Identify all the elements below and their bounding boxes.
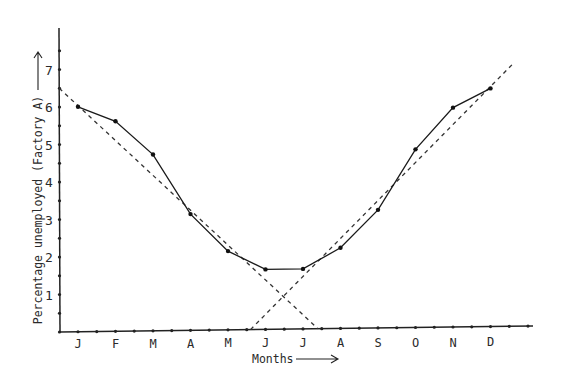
x-axis-title: Months	[252, 352, 294, 366]
x-tick-label: N	[449, 336, 456, 350]
y-tick-mark	[58, 180, 61, 183]
x-tick-label: M	[224, 336, 231, 350]
y-tick-label: 2	[45, 250, 53, 265]
x-tick-mark	[189, 329, 192, 332]
axes	[59, 28, 533, 332]
unemployment-chart: 1234567 JFMAMJJASOND Percentage unemploy…	[0, 0, 562, 384]
y-tick-mark	[58, 105, 61, 108]
y-tick-mark	[58, 255, 61, 258]
data-point	[226, 249, 230, 253]
y-tick-mark	[58, 143, 61, 146]
x-tick-mark	[414, 326, 417, 329]
data-point	[376, 208, 380, 212]
y-tick-mark	[58, 199, 61, 202]
x-tick-mark	[114, 330, 117, 333]
x-tick-mark	[208, 329, 211, 332]
x-axis-arrow-icon	[296, 355, 338, 363]
x-tick-mark	[226, 328, 229, 331]
y-tick-mark	[58, 49, 61, 52]
data-point	[488, 86, 492, 90]
y-axis-title: Percentage unemployed (Factory A)	[31, 96, 45, 324]
y-tick-mark	[58, 330, 61, 333]
x-tick-label: M	[149, 337, 156, 351]
y-tick-mark	[58, 293, 61, 296]
data-point	[413, 147, 417, 151]
x-tick-label: J	[74, 337, 81, 351]
y-tick-mark	[58, 124, 61, 127]
x-tick-mark	[283, 328, 286, 331]
x-tick-mark	[358, 327, 361, 330]
x-tick-mark	[170, 329, 173, 332]
y-tick-label: 6	[45, 100, 53, 115]
data-point	[188, 212, 192, 216]
x-tick-mark	[470, 325, 473, 328]
x-tick-label: D	[487, 335, 494, 349]
data-point	[451, 105, 455, 109]
y-axis-line	[59, 28, 60, 332]
trend-line-1	[59, 88, 318, 328]
x-axis-line	[60, 326, 533, 332]
trend-line-2	[251, 64, 514, 330]
x-tick-mark	[133, 329, 136, 332]
y-tick-label: 7	[45, 63, 53, 78]
x-tick-mark	[264, 328, 267, 331]
y-axis-title-group: Percentage unemployed (Factory A)	[31, 52, 45, 324]
x-tick-label: A	[337, 336, 345, 350]
x-tick-label: J	[262, 336, 269, 350]
data-point	[113, 119, 117, 123]
x-tick-label: O	[412, 336, 419, 350]
x-tick-mark	[151, 329, 154, 332]
y-tick-mark	[58, 237, 61, 240]
x-tick-mark	[76, 330, 79, 333]
y-tick-mark	[58, 68, 61, 71]
y-axis-arrow-icon	[34, 52, 42, 90]
data-point	[151, 152, 155, 156]
y-tick-mark	[58, 274, 61, 277]
series-group	[76, 86, 493, 271]
x-axis-title-group: Months	[252, 352, 338, 366]
y-tick-mark	[58, 312, 61, 315]
x-tick-mark	[339, 327, 342, 330]
data-point	[76, 105, 80, 109]
x-tick-mark	[320, 327, 323, 330]
x-tick-mark	[301, 327, 304, 330]
y-tick-label: 1	[45, 288, 53, 303]
y-tick-mark	[58, 218, 61, 221]
x-tick-mark	[376, 326, 379, 329]
x-tick-mark	[433, 326, 436, 329]
data-point	[338, 246, 342, 250]
y-tick-mark	[58, 162, 61, 165]
x-ticks: JFMAMJJASOND	[74, 324, 529, 350]
x-tick-label: A	[187, 337, 195, 351]
x-tick-label: J	[299, 336, 306, 350]
y-tick-label: 4	[45, 175, 53, 190]
y-tick-label: 3	[45, 213, 53, 228]
x-tick-mark	[395, 326, 398, 329]
x-tick-mark	[245, 328, 248, 331]
x-tick-mark	[95, 330, 98, 333]
x-tick-label: F	[112, 337, 119, 351]
x-tick-mark	[526, 324, 529, 327]
x-tick-label: S	[374, 336, 381, 350]
y-tick-label: 5	[45, 138, 53, 153]
data-point	[301, 267, 305, 271]
data-point	[263, 267, 267, 271]
x-tick-mark	[451, 325, 454, 328]
trend-lines	[59, 64, 513, 330]
series-line	[78, 88, 491, 269]
x-tick-mark	[508, 325, 511, 328]
x-tick-mark	[489, 325, 492, 328]
